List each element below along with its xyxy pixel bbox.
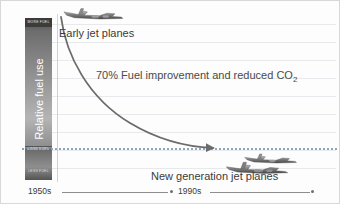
timeline-tick-dot xyxy=(170,190,173,193)
fuel-scale-top-label: MORE FUEL xyxy=(25,20,52,25)
annotation-fuel-improvement: 70% Fuel improvement and reduced CO2 xyxy=(96,69,297,84)
gridline xyxy=(52,132,336,133)
airplane-icon xyxy=(60,6,128,23)
timeline-label-1990s: 1990s xyxy=(178,186,201,196)
gridline xyxy=(52,24,336,25)
reference-dotted-line xyxy=(22,148,337,150)
fuel-scale-bar: MORE FUEL LESS FUEL LESS FUEL xyxy=(25,18,52,180)
timeline-axis: 1950s 1990s xyxy=(24,186,324,200)
y-axis-line xyxy=(57,14,58,182)
timeline-label-1950s: 1950s xyxy=(28,186,51,196)
annotation-early-jet-planes: Early jet planes xyxy=(59,27,134,39)
gridline xyxy=(52,42,336,43)
gridline xyxy=(52,60,336,61)
chart-canvas: MORE FUEL LESS FUEL LESS FUEL Relative f… xyxy=(0,0,340,204)
timeline-tick-dot xyxy=(311,190,314,193)
annotation-fuel-improvement-text: 70% Fuel improvement and reduced CO xyxy=(96,69,293,81)
timeline-segment xyxy=(62,192,168,193)
gridline xyxy=(52,96,336,97)
annotation-co2-subscript: 2 xyxy=(293,75,297,84)
annotation-new-generation: New generation jet planes xyxy=(151,170,278,182)
gridline xyxy=(52,114,336,115)
gridline xyxy=(52,168,336,169)
timeline-segment xyxy=(210,192,310,193)
fuel-scale-bottom-label: LESS FUEL xyxy=(25,169,52,174)
